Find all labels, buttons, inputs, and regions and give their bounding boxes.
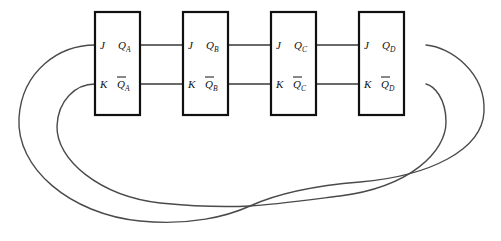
flipflop-d-k-label: K [363,78,372,90]
flipflop-b-k-label: K [187,78,196,90]
flipflop-b-qbar-label: Q [205,78,213,90]
flipflop-a-body[interactable] [95,12,140,115]
flipflop-c-q-label: Q [294,39,302,51]
flipflop-d-qbar-subscript: D [388,84,395,93]
flipflop-d-qbar-label: Q [381,78,389,90]
flipflop-b-q-subscript: B [214,45,219,54]
flipflop-c-body[interactable] [271,12,316,115]
flipflop-c[interactable]: J K Q C Q C [271,12,316,115]
flipflop-a-k-label: K [99,78,108,90]
flipflop-b[interactable]: J K Q B Q B [183,12,228,115]
feedback-loop-group [19,45,484,222]
flipflop-d-body[interactable] [359,12,404,115]
flipflop-a-qbar-label: Q [117,78,125,90]
flipflop-c-k-label: K [275,78,284,90]
flipflop-d-q-subscript: D [389,45,396,54]
flipflop-b-body[interactable] [183,12,228,115]
interstage-wire-group [140,45,359,84]
flipflop-a[interactable]: J K Q A Q A [95,12,140,115]
feedback-wire-qd-to-ja [19,45,484,222]
flipflop-c-qbar-label: Q [293,78,301,90]
flipflop-a-q-subscript: A [125,45,131,54]
flipflop-a-qbar-subscript: A [124,84,130,93]
flipflop-b-q-label: Q [206,39,214,51]
circuit-canvas: J K Q A Q A J K Q B Q B J K Q C Q [0,0,501,241]
flipflop-a-q-label: Q [118,39,126,51]
flipflop-b-qbar-subscript: B [213,84,218,93]
flipflop-d[interactable]: J K Q D Q D [359,12,404,115]
flipflop-d-q-label: Q [382,39,390,51]
circuit-diagram: J K Q A Q A J K Q B Q B J K Q C Q [0,0,501,241]
